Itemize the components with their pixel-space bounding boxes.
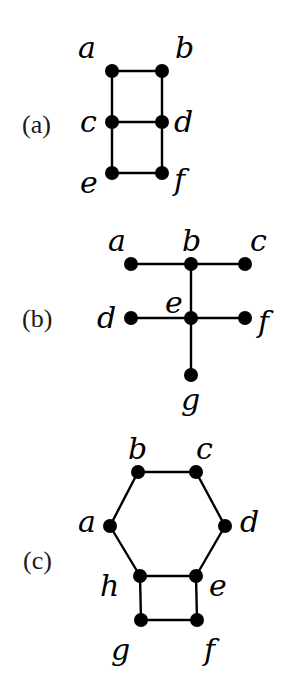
vertex-c [189, 465, 203, 479]
vertex-label-d: d [174, 104, 193, 139]
vertex-label-e: e [80, 165, 98, 200]
vertex-c [238, 257, 252, 271]
vertex-a [105, 64, 119, 78]
vertex-d [218, 519, 232, 533]
vertex-a [103, 519, 117, 533]
panel-a: (a)abcdef [22, 30, 194, 200]
vertex-label-b: b [182, 223, 201, 258]
vertex-label-e: e [209, 568, 227, 603]
vertex-label-d: d [240, 504, 259, 539]
edge-a-b [110, 472, 138, 526]
panel-c: (c)abcdefgh [23, 431, 259, 667]
vertex-b [184, 257, 198, 271]
vertex-d [155, 115, 169, 129]
vertex-c [105, 115, 119, 129]
vertex-label-c: c [250, 223, 267, 258]
vertex-b [155, 64, 169, 78]
vertex-label-e: e [165, 285, 183, 320]
vertex-label-c: c [80, 104, 97, 139]
vertex-label-f: f [202, 632, 220, 667]
vertex-g [184, 368, 198, 382]
panel-label: (c) [23, 546, 52, 575]
vertex-a [124, 257, 138, 271]
vertex-g [134, 613, 148, 627]
vertex-e [189, 569, 203, 583]
vertex-label-c: c [196, 431, 213, 466]
vertex-label-a: a [78, 504, 96, 539]
graph-figure: (a)abcdef (b)abcdefg (c)abcdefgh [0, 0, 299, 684]
vertex-label-a: a [78, 30, 96, 65]
panel-label: (b) [22, 304, 52, 333]
vertex-f [238, 311, 252, 325]
panel-b: (b)abcdefg [22, 223, 274, 417]
vertex-b [131, 465, 145, 479]
vertex-e [184, 311, 198, 325]
vertex-d [124, 311, 138, 325]
vertex-label-g: g [181, 382, 200, 417]
vertex-label-f: f [256, 304, 274, 339]
vertex-label-h: h [100, 568, 119, 603]
panel-label: (a) [22, 110, 51, 139]
vertex-label-b: b [128, 431, 147, 466]
vertex-label-b: b [175, 30, 194, 65]
vertex-f [190, 613, 204, 627]
edge-c-d [196, 472, 225, 526]
vertex-label-a: a [108, 223, 126, 258]
vertex-label-g: g [111, 632, 130, 667]
vertex-f [155, 166, 169, 180]
vertex-h [133, 569, 147, 583]
vertex-label-d: d [97, 300, 116, 335]
vertex-e [105, 166, 119, 180]
vertex-label-f: f [172, 162, 190, 197]
